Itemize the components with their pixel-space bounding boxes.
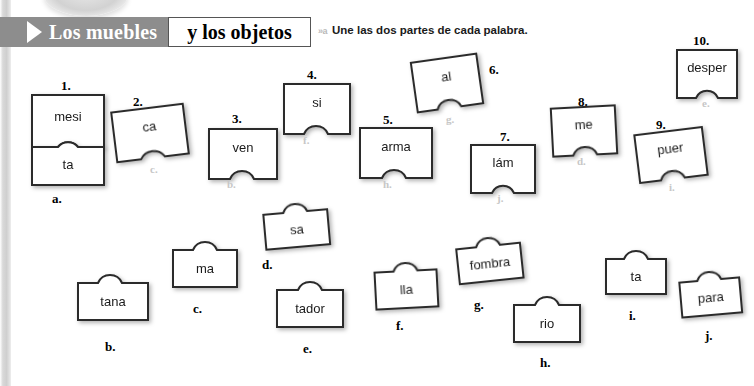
puzzle-piece-b[interactable]: tana — [77, 265, 149, 321]
piece-1-text: mesi — [54, 109, 82, 124]
piece-e-text: tador — [295, 301, 325, 316]
puzzle-piece-c[interactable]: ma — [172, 232, 238, 288]
piece-10-text: desper — [687, 60, 727, 75]
puzzle-piece-2[interactable]: ca — [110, 103, 190, 164]
puzzle-piece-f[interactable]: lla — [373, 251, 440, 310]
puzzle-piece-j[interactable]: para — [677, 259, 743, 318]
piece-number-4: 4. — [307, 67, 317, 83]
instruction-text: Une las dos partes de cada palabra. — [332, 24, 528, 36]
puzzle-piece-6[interactable]: al — [410, 53, 485, 114]
section-banner: Los muebles — [0, 17, 172, 47]
puzzle-piece-10[interactable]: desper — [676, 49, 738, 99]
boxed-title: y los objetos — [168, 17, 311, 47]
banner-title: Los muebles — [49, 21, 157, 44]
piece-2-text: ca — [142, 119, 158, 136]
piece-letter-c: c. — [193, 301, 202, 317]
puzzle-piece-8[interactable]: me — [550, 104, 619, 157]
piece-4-text: si — [312, 95, 322, 110]
piece-8-answer: d. — [577, 155, 586, 167]
puzzle-piece-3[interactable]: ven — [208, 128, 278, 180]
piece-3-text: ven — [233, 140, 254, 155]
piece-9-text: puer — [656, 140, 684, 158]
puzzle-piece-7[interactable]: lám — [470, 144, 536, 194]
piece-a-text: ta — [63, 157, 75, 172]
piece-5-text: arma — [381, 139, 411, 154]
puzzle-piece-h[interactable]: rio — [513, 287, 581, 343]
piece-j-text: para — [697, 289, 725, 306]
piece-6-answer: g. — [446, 113, 454, 125]
piece-10-answer: e. — [702, 97, 710, 109]
piece-7-text: lám — [493, 155, 514, 170]
instruction: »a Une las dos partes de cada palabra. — [318, 24, 528, 36]
piece-2-answer: c. — [150, 163, 158, 175]
piece-6-text: al — [440, 69, 452, 85]
piece-3-answer: b. — [227, 178, 236, 190]
piece-i-text: ta — [631, 269, 643, 284]
piece-b-text: tana — [100, 294, 126, 309]
piece-letter-i: i. — [629, 308, 636, 324]
piece-letter-d: d. — [262, 257, 272, 273]
piece-number-3: 3. — [232, 111, 242, 127]
puzzle-piece-a[interactable]: ta — [31, 128, 105, 186]
puzzle-piece-i[interactable]: ta — [605, 241, 667, 295]
piece-letter-j: j. — [705, 328, 713, 344]
puzzle-piece-4[interactable]: si — [283, 83, 351, 135]
piece-letter-g: g. — [474, 297, 484, 313]
piece-h-text: rio — [540, 316, 554, 331]
instruction-marker: »a — [318, 26, 327, 36]
piece-number-6: 6. — [489, 62, 499, 78]
piece-9-answer: i. — [669, 181, 675, 193]
puzzle-piece-9[interactable]: puer — [633, 126, 709, 184]
piece-letter-f: f. — [396, 318, 404, 334]
piece-number-1: 1. — [61, 78, 71, 94]
piece-f-text: lla — [400, 282, 415, 298]
decorative-oval — [44, 0, 128, 16]
piece-number-5: 5. — [383, 112, 393, 128]
piece-number-7: 7. — [500, 129, 510, 145]
piece-c-text: ma — [196, 261, 215, 276]
page-edge-strip — [0, 0, 11, 386]
piece-letter-h: h. — [540, 355, 550, 371]
piece-d-text: sa — [289, 222, 305, 238]
puzzle-piece-g[interactable]: fombra — [453, 225, 524, 286]
boxed-title-text: y los objetos — [187, 21, 291, 44]
piece-letter-e: e. — [303, 341, 312, 357]
puzzle-piece-d[interactable]: sa — [261, 191, 331, 251]
piece-number-10: 10. — [693, 33, 709, 49]
puzzle-piece-e[interactable]: tador — [276, 272, 344, 328]
piece-7-answer: j. — [497, 192, 503, 204]
piece-letter-b: b. — [105, 339, 115, 355]
play-triangle-icon — [27, 21, 42, 43]
piece-5-answer: h. — [383, 178, 392, 190]
piece-letter-a: a. — [52, 191, 62, 207]
puzzle-piece-5[interactable]: arma — [359, 127, 433, 179]
piece-8-text: me — [574, 117, 593, 133]
worksheet-page: Los muebles y los objetos »a Une las dos… — [0, 0, 754, 386]
piece-4-answer: f. — [303, 134, 309, 146]
